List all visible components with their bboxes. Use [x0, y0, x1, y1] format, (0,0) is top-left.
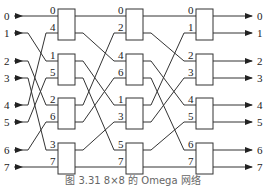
port-label: 1	[118, 93, 124, 105]
input-label: 0	[4, 10, 10, 22]
switch-box	[58, 98, 75, 129]
port-label: 5	[50, 66, 56, 78]
switch-box	[126, 98, 143, 129]
port-label: 6	[118, 66, 124, 78]
input-label: 1	[4, 27, 10, 39]
port-label: 2	[50, 93, 56, 105]
omega-network-diagram: 0123456704152637024613570123456701234567…	[0, 0, 267, 186]
input-label: 5	[4, 116, 10, 128]
switch-box	[196, 98, 213, 129]
output-label: 3	[257, 72, 263, 84]
input-label: 7	[4, 161, 10, 173]
port-label: 3	[188, 66, 194, 78]
port-label: 0	[188, 4, 194, 16]
port-label: 1	[50, 49, 56, 61]
port-label: 5	[188, 110, 194, 122]
port-label: 4	[188, 93, 194, 105]
output-label: 2	[257, 55, 263, 67]
switch-box	[58, 9, 75, 40]
switch-box	[126, 143, 143, 174]
switch-box	[196, 143, 213, 174]
output-label: 4	[257, 99, 263, 111]
port-label: 4	[118, 49, 124, 61]
port-label: 1	[188, 21, 194, 33]
port-label: 5	[118, 138, 124, 150]
switch-box	[126, 54, 143, 85]
port-label: 6	[188, 138, 194, 150]
input-label: 3	[4, 72, 10, 84]
output-label: 7	[257, 161, 263, 173]
output-label: 0	[257, 10, 263, 22]
output-label: 6	[257, 144, 263, 156]
port-label: 4	[50, 21, 56, 33]
port-label: 7	[188, 155, 194, 167]
port-label: 0	[118, 4, 124, 16]
output-label: 5	[257, 116, 263, 128]
switch-box	[58, 54, 75, 85]
input-label: 6	[4, 144, 10, 156]
port-label: 2	[118, 21, 124, 33]
input-label: 4	[4, 99, 10, 111]
port-label: 3	[118, 110, 124, 122]
figure-caption: 图 3.31 8×8 的 Omega 网络	[65, 174, 201, 186]
switch-box	[126, 9, 143, 40]
port-label: 0	[50, 4, 56, 16]
input-label: 2	[4, 55, 10, 67]
port-label: 7	[118, 155, 124, 167]
switch-box	[196, 54, 213, 85]
switch-box	[58, 143, 75, 174]
switch-box	[196, 9, 213, 40]
port-label: 7	[50, 155, 56, 167]
port-label: 6	[50, 110, 56, 122]
port-label: 3	[50, 138, 56, 150]
port-label: 2	[188, 49, 194, 61]
output-label: 1	[257, 27, 263, 39]
